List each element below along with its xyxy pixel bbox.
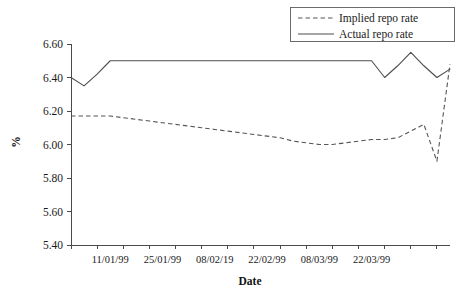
x-axis-tick-label: 22/02/99 <box>248 254 285 265</box>
chart-legend: Implied repo rateActual repo rate <box>290 7 454 41</box>
y-axis-title: % <box>10 136 22 148</box>
x-axis-title: Date <box>239 275 262 287</box>
y-axis-tick-label: 5.60 <box>43 206 63 218</box>
legend-label: Actual repo rate <box>339 28 413 41</box>
x-axis-tick-label: 08/02/19 <box>196 254 233 265</box>
repo-rate-line-chart: 5.405.605.806.006.206.406.60 11/01/9925/… <box>0 0 461 294</box>
chart-svg: 5.405.605.806.006.206.406.60 11/01/9925/… <box>0 0 461 294</box>
x-axis-tick-label: 08/03/99 <box>301 254 338 265</box>
x-axis-tick-label: 25/01/99 <box>144 254 181 265</box>
legend-label: Implied repo rate <box>339 12 418 25</box>
y-axis-tick-label: 6.60 <box>43 38 63 50</box>
x-axis-tick-label: 22/03/99 <box>353 254 390 265</box>
x-axis-tick-label: 11/01/99 <box>92 254 129 265</box>
y-axis-tick-label: 5.80 <box>43 172 63 184</box>
y-axis-tick-label: 6.00 <box>43 139 63 151</box>
y-axis-tick-label: 6.40 <box>43 72 63 84</box>
y-axis-tick-label: 5.40 <box>43 239 63 251</box>
y-axis-tick-label: 6.20 <box>43 105 63 117</box>
